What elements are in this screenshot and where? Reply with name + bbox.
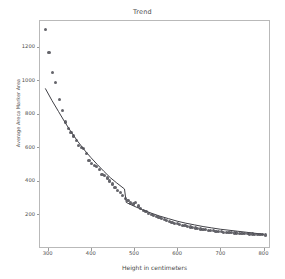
x-tick-mark <box>134 248 135 251</box>
data-point <box>67 127 70 130</box>
x-tick-label: 800 <box>252 251 276 256</box>
y-tick-mark <box>37 47 40 48</box>
data-point <box>264 233 267 236</box>
y-tick-mark <box>37 181 40 182</box>
trend-line-path <box>45 89 263 235</box>
chart-title: Trend <box>0 8 285 16</box>
y-tick-mark <box>37 147 40 148</box>
x-tick-label: 300 <box>36 251 60 256</box>
data-point <box>51 71 54 74</box>
x-tick-mark <box>48 248 49 251</box>
data-point <box>64 120 67 123</box>
y-tick-mark <box>37 214 40 215</box>
data-point <box>61 109 64 112</box>
chart-figure: Trend 20040060080010001200 3004005006007… <box>0 0 285 279</box>
data-point <box>44 28 47 31</box>
y-tick-mark <box>37 114 40 115</box>
x-tick-mark <box>177 248 178 251</box>
y-tick-mark <box>37 80 40 81</box>
x-tick-label: 600 <box>165 251 189 256</box>
data-point <box>47 51 50 54</box>
x-tick-mark <box>220 248 221 251</box>
x-tick-mark <box>264 248 265 251</box>
x-axis-label: Height in centimeters <box>39 264 270 271</box>
y-tick-label: 200 <box>13 212 35 217</box>
data-point <box>72 134 75 137</box>
data-point <box>98 168 101 171</box>
x-tick-label: 700 <box>208 251 232 256</box>
x-tick-label: 500 <box>122 251 146 256</box>
y-axis-label: Average Areca Marker Area <box>15 43 21 183</box>
data-point <box>85 152 88 155</box>
x-tick-label: 400 <box>79 251 103 256</box>
x-tick-mark <box>91 248 92 251</box>
